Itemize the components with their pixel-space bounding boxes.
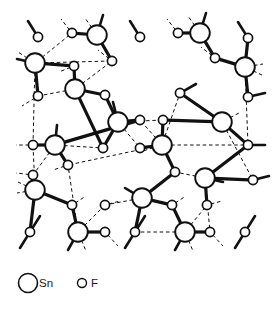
legend-f-marker [78,279,87,288]
f-atom [98,143,107,152]
covalent-bond [44,64,70,66]
covalent-bond [167,120,213,122]
f-atom [63,160,72,169]
f-atom [107,56,116,65]
f-atom [135,32,144,41]
covalent-bond [206,187,207,201]
f-atom [173,28,182,37]
figure-background [0,0,279,311]
f-atom [170,167,179,176]
f-atom [130,227,139,236]
f-atom [248,175,257,184]
sn-atom [152,135,172,155]
legend-sn-marker [19,274,38,293]
covalent-bond [246,76,248,93]
f-atom [135,143,144,152]
f-atom [100,90,109,99]
f-atom [33,91,42,100]
f-atom [175,88,184,97]
covalent-bond [36,72,38,92]
sn-atom [68,222,88,242]
f-atom [243,140,252,149]
f-atom [33,32,42,41]
legend-sn-label: Sn [39,277,53,289]
f-atom [243,92,252,101]
f-atom [167,200,176,209]
f-atom [100,200,109,209]
f-atom [67,200,76,209]
sn-atom [235,57,255,77]
f-atom [158,115,167,124]
covalent-bond [76,33,88,34]
sn-atom [87,25,107,45]
f-atom [135,115,144,124]
f-atom [69,61,78,70]
sn-atom [25,180,45,200]
sn-atom [65,79,85,99]
sn-atom [190,23,210,43]
sn-atom [195,168,215,188]
legend-f-label: F [91,277,98,289]
sn-atom [212,112,232,132]
f-atom [25,227,34,236]
sn-atom [132,188,152,208]
f-atom [100,227,109,236]
structure-canvas: Sn F [0,0,279,311]
f-atom [205,227,214,236]
sn-atom [45,135,65,155]
f-atom [243,33,252,42]
sn-atom [175,222,195,242]
sn-atom [108,112,128,132]
edge-bond-stub [56,125,57,136]
f-atom [67,28,76,37]
f-atom [28,170,37,179]
crystal-structure-figure: Sn F [0,0,279,311]
f-atom [240,227,249,236]
covalent-bond [246,42,248,58]
f-atom [202,200,211,209]
f-atom [210,53,219,62]
f-atom [28,140,37,149]
covalent-bond [214,178,249,179]
sn-atom [25,53,45,73]
